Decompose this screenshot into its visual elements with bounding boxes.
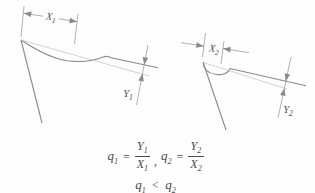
x1-dimension-label: X1 xyxy=(44,10,57,25)
right-tool-crater-arc xyxy=(203,63,230,75)
x1-arrow-left xyxy=(24,13,43,16)
right-tool-reference-line xyxy=(204,63,288,90)
x1-extension-line-right xyxy=(75,14,79,44)
y1-dimension-label: Y1 xyxy=(123,88,133,102)
y2-dimension-label: Y2 xyxy=(283,104,293,118)
left-tool-flank-edge xyxy=(21,40,42,123)
x1-extension-line-left xyxy=(21,6,24,37)
x2-arrow-right xyxy=(223,49,249,53)
eq2-lhs: q2 xyxy=(161,149,172,166)
eq1-fraction: Y1 X1 xyxy=(135,140,150,174)
y1-dimension-line-upper xyxy=(144,45,148,65)
equation-separator: , xyxy=(154,154,157,169)
eq1-lhs: q1 xyxy=(107,149,118,166)
left-tool-outline xyxy=(21,40,158,123)
inequality-lhs: q1 xyxy=(135,177,146,192)
less-than-sign: < xyxy=(149,178,162,192)
right-tool-dimensions xyxy=(181,33,291,118)
equation-row-inequality: q1 < q2 xyxy=(83,177,228,193)
equation-row-ratios: q1 = Y1 X1 , q2 = Y2 X2 xyxy=(83,140,228,174)
eq1-numerator: Y1 xyxy=(135,140,150,155)
x2-dimension-label: X2 xyxy=(207,42,220,57)
y1-dimension-line-mid xyxy=(143,65,145,74)
eq2-fraction: Y2 X2 xyxy=(188,140,203,174)
diagram-canvas: X1 Y1 X2 Y2 q1 = Y1 xyxy=(0,0,315,193)
left-tool-reference-line xyxy=(21,40,149,76)
x2-extension-line-left xyxy=(203,33,206,57)
equations-block: q1 = Y1 X1 , q2 = Y2 X2 q1 < q2 xyxy=(83,140,228,193)
right-tool-flank-edge xyxy=(203,62,226,130)
eq2-numerator: Y2 xyxy=(189,140,204,155)
eq2-equals-sign: = xyxy=(176,151,185,163)
left-tool-reference-line-group xyxy=(21,40,149,76)
eq1-equals-sign: = xyxy=(122,151,131,163)
y1-dimension-line-lower xyxy=(137,74,143,105)
eq1-denominator: X1 xyxy=(135,158,150,173)
left-tool-crater-face xyxy=(21,40,158,68)
right-tool-outline xyxy=(203,62,306,130)
eq2-denominator: X2 xyxy=(188,158,203,173)
right-tool-reference-line-group xyxy=(204,63,288,90)
y2-dimension-line-upper xyxy=(286,57,291,81)
inequality-rhs: q2 xyxy=(165,177,176,192)
x1-arrow-right xyxy=(59,19,77,22)
y2-dimension-line-mid xyxy=(284,81,285,88)
x2-extension-line-right xyxy=(221,41,224,64)
x2-arrow-left xyxy=(181,43,204,47)
